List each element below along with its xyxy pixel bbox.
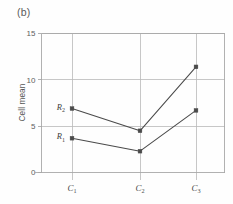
series-labels: R2R1 (56, 102, 65, 143)
data-point-marker (70, 107, 74, 111)
y-axis-ticks: 051015 (27, 29, 42, 177)
y-tick-label: 5 (31, 122, 36, 131)
grid-lines (42, 34, 225, 180)
x-axis-ticks: C1C2C3 (67, 183, 200, 194)
line-chart: 051015 C1C2C3 R2R1 (0, 0, 233, 204)
data-series-layer (70, 65, 198, 153)
series-line (72, 110, 196, 151)
data-point-marker (70, 136, 74, 140)
y-tick-label: 15 (27, 29, 36, 38)
y-tick-label: 10 (27, 76, 36, 85)
x-tick-label: C2 (135, 183, 144, 194)
x-tick-label: C3 (191, 183, 200, 194)
data-point-marker (138, 149, 142, 153)
data-point-marker (138, 129, 142, 133)
data-point-marker (194, 65, 198, 69)
data-point-marker (194, 109, 198, 113)
figure-panel-b: (b) Cell mean 051015 C1C2C3 R2R1 (0, 0, 233, 204)
series-label-r2: R2 (56, 102, 65, 113)
series-line (72, 67, 196, 131)
series-label-r1: R1 (56, 131, 65, 142)
x-tick-label: C1 (67, 183, 76, 194)
